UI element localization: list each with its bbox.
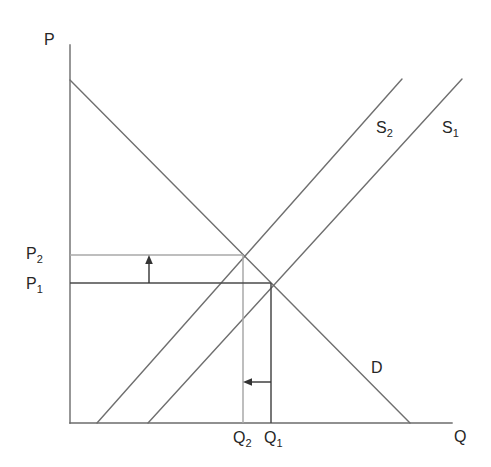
demand-curve-label: D (371, 359, 383, 376)
price-p2-text: P (26, 245, 37, 262)
quantity-q1-subscript: 1 (276, 437, 282, 449)
supply-curve-s2 (97, 79, 402, 423)
price-p1-text: P (26, 275, 37, 292)
supply-s1-label-subscript: 1 (453, 127, 459, 139)
x-axis-label: Q (454, 428, 466, 445)
quantity-q2-text: Q (233, 429, 245, 446)
supply-curve-s2-label: S2 (376, 119, 393, 139)
supply-curve-s1 (148, 79, 462, 423)
supply-demand-diagram: P Q S2 S1 D P2 P1 Q2 Q1 (0, 0, 491, 467)
curves-group (70, 79, 462, 423)
price-arrow-head (145, 255, 153, 264)
supply-s1-label-text: S (442, 119, 453, 136)
price-label-p1: P1 (26, 275, 43, 295)
price-p2-subscript: 2 (37, 253, 43, 265)
quantity-q2-subscript: 2 (245, 437, 251, 449)
quantity-label-q1: Q1 (264, 429, 283, 449)
quantity-decrease-arrow (243, 378, 271, 386)
equilibrium-2-guides (70, 255, 243, 423)
supply-s2-label-subscript: 2 (387, 127, 393, 139)
supply-curve-s1-label: S1 (442, 119, 459, 139)
demand-curve (70, 80, 410, 423)
price-label-p2: P2 (26, 245, 43, 265)
quantity-label-q2: Q2 (233, 429, 252, 449)
axes-group (70, 45, 452, 423)
price-p1-subscript: 1 (37, 283, 43, 295)
price-increase-arrow (145, 255, 153, 283)
diagram-canvas: P Q S2 S1 D P2 P1 Q2 Q1 (0, 0, 491, 467)
quantity-q1-text: Q (264, 429, 276, 446)
y-axis-label: P (44, 31, 55, 48)
supply-s2-label-text: S (376, 119, 387, 136)
equilibrium-1-guides (70, 283, 271, 423)
quantity-arrow-head (243, 378, 252, 386)
